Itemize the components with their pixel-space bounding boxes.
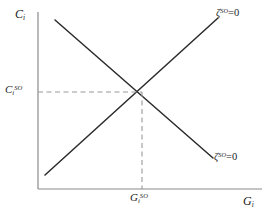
- y-axis-label-sub: i: [23, 13, 25, 22]
- curve-down-eq: =0: [226, 151, 237, 162]
- x-axis-tick-label: GiSO: [130, 192, 148, 203]
- x-tick-var: G: [130, 191, 138, 203]
- curve-label-downward-schedule: ζSO=0: [214, 152, 237, 163]
- plot-canvas: [0, 0, 273, 215]
- x-tick-sup: SO: [140, 192, 148, 199]
- y-axis-label-var: C: [15, 7, 23, 21]
- x-axis-label: Gi: [243, 195, 254, 207]
- phase-diagram-figure: Ci Gi CiSO GiSO ζSO=0 ζSO=0: [0, 0, 273, 215]
- curve-up-sup: SO: [220, 7, 228, 14]
- y-axis-tick-label: CiSO: [5, 84, 22, 95]
- curve-up-eq: =0: [228, 7, 239, 18]
- curve-upward-schedule: [45, 18, 218, 175]
- curve-down-sup: SO: [218, 151, 226, 158]
- y-axis-label: Ci: [15, 8, 25, 20]
- x-axis-label-sub: i: [252, 200, 254, 209]
- x-axis-label-var: G: [243, 194, 252, 208]
- y-tick-sup: SO: [14, 84, 22, 91]
- curve-label-upward-schedule: ζSO=0: [216, 8, 239, 19]
- curve-downward-schedule: [55, 20, 213, 158]
